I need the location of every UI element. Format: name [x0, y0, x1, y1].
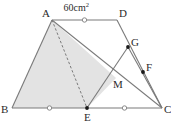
- vertex-label-e: E: [84, 112, 91, 123]
- vertex-label-g: G: [131, 37, 139, 48]
- point-dot-g: [126, 45, 130, 49]
- point-dot-f: [141, 70, 145, 74]
- area-annotation-label: 60cm2: [64, 3, 89, 13]
- shaded-region-abem: [12, 20, 116, 108]
- tick-EC: [122, 106, 126, 110]
- area-annotation-text: 60cm: [64, 2, 86, 13]
- vertex-label-c: C: [164, 104, 171, 115]
- geometry-figure: 60cm2 ABCDEFGM: [0, 0, 171, 127]
- point-dot-e: [85, 106, 89, 110]
- vertex-label-f: F: [146, 62, 152, 73]
- vertex-label-a: A: [42, 8, 50, 19]
- vertex-label-d: D: [119, 8, 127, 19]
- tick-AD: [82, 18, 86, 22]
- vertex-label-b: B: [1, 104, 8, 115]
- segment-GC: [128, 47, 162, 108]
- area-annotation-exponent: 2: [86, 1, 89, 8]
- tick-BE: [47, 106, 51, 110]
- vertex-label-m: M: [113, 79, 123, 90]
